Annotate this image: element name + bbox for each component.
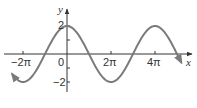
y-axis-label: y [57, 3, 63, 15]
x-tick-label-neg2pi: −2π [11, 56, 32, 68]
x-tick-label-zero: 0 [58, 56, 64, 68]
x-axis-label: x [185, 56, 191, 68]
y-tick-label-neg2: −2 [53, 76, 66, 88]
y-tick-label-2: 2 [58, 19, 64, 31]
cosine-graph: y 2 −2 −2π 0 2π 4π x [0, 0, 197, 108]
x-tick-label-4pi: 4π [147, 56, 161, 68]
x-tick-label-2pi: 2π [103, 56, 117, 68]
